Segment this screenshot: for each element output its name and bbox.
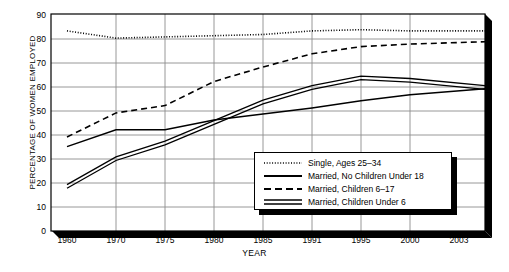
legend-swatch-solid-icon — [262, 170, 304, 182]
legend-label-married-children-under-6: Married, Children Under 6 — [308, 197, 406, 208]
legend-label-single-ages-25-34: Single, Ages 25–34 — [308, 158, 381, 169]
legend-swatch-dashed-icon — [262, 183, 304, 195]
legend-label-married-no-children-under-18: Married, No Children Under 18 — [308, 171, 424, 182]
legend-swatch-double-icon — [262, 196, 304, 208]
chart-container: PERCENTAGE OF WOMEN EMPLOYED 90 80 70 60… — [0, 0, 509, 272]
legend-swatch-dotted-icon — [262, 157, 304, 169]
legend-label-married-children-6-17: Married, Children 6–17 — [308, 184, 394, 195]
plot-area — [0, 0, 509, 272]
legend-entry-married-children-6-17: Married, Children 6–17 — [262, 183, 450, 196]
legend: Single, Ages 25–34 Married, No Children … — [254, 152, 452, 210]
legend-entry-married-children-under-6: Married, Children Under 6 — [262, 196, 450, 209]
legend-entry-single-ages-25-34: Single, Ages 25–34 — [262, 157, 450, 170]
legend-entry-married-no-children-under-18: Married, No Children Under 18 — [262, 170, 450, 183]
